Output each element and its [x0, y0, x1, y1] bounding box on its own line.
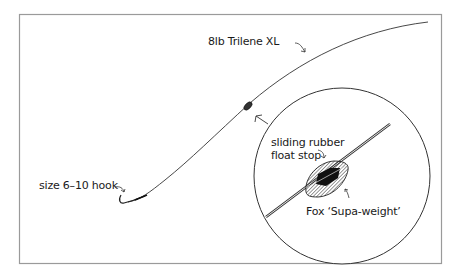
- float-stop-label-line2: float stop: [271, 149, 321, 162]
- inset-pointer-arrow: [256, 116, 268, 124]
- arrowhead-icon: [255, 115, 262, 122]
- weight-label: Fox ‘Supa-weight’: [306, 205, 401, 218]
- hook-icon: [120, 195, 145, 203]
- float-stop-small: [242, 100, 253, 111]
- float-stop-label-line1: sliding rubber: [271, 136, 344, 149]
- hook-label: size 6–10 hook: [39, 179, 118, 192]
- hook-shank: [135, 195, 147, 200]
- main-line-label: 8lb Trilene XL: [208, 35, 279, 48]
- main-line-label-arrow: [295, 43, 305, 52]
- diagram-canvas: 8lb Trilene XL size 6–10 hook sliding ru…: [0, 0, 457, 274]
